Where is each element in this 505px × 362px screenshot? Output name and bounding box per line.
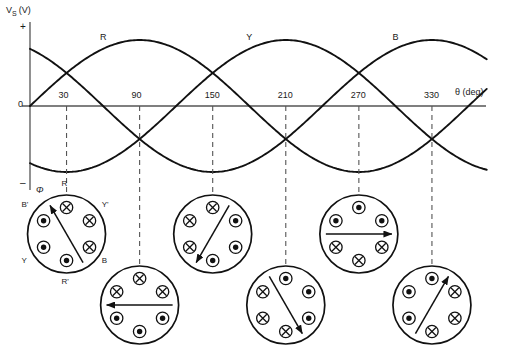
origin-label: 0 [18, 100, 23, 109]
stator-270 [320, 195, 398, 273]
slot-30-bottom-dot-current-out [64, 258, 69, 263]
pole-label-B-prime: B' [21, 201, 28, 209]
stator-150 [174, 195, 252, 273]
y-axis-negative-sign: – [20, 178, 26, 188]
x-axis-label: θ (deg) [455, 88, 484, 97]
stator-210 [247, 266, 325, 344]
slot-270-top-left-dot-current-out [333, 218, 338, 223]
y-axis-label-unit: (V) [19, 5, 31, 15]
pole-label-Y-prime: Y' [102, 201, 109, 209]
y-axis-label-subscript: S [12, 10, 17, 17]
curve-label-B: B [392, 33, 398, 42]
slot-270-top-right-dot-current-out [379, 218, 384, 223]
x-tick-label-210: 210 [278, 91, 293, 100]
pole-label-Y: Y [21, 257, 26, 265]
slot-150-top-right-dot-current-out [233, 218, 238, 223]
flux-symbol-label: Φ [36, 186, 44, 195]
y-axis-label: VS(V) [6, 6, 31, 17]
pole-label-R: R [62, 180, 68, 188]
slot-270-top-dot-current-out [356, 205, 361, 210]
pole-label-R-prime: R' [62, 278, 69, 286]
slot-30-bottom-left-dot-current-out [41, 245, 46, 250]
x-tick-label-330: 330 [424, 91, 439, 100]
slot-30-top-left-dot-current-out [41, 218, 46, 223]
slot-90-bottom-left-dot-current-out [114, 316, 119, 321]
slot-330-top-dot-current-out [429, 276, 434, 281]
x-tick-label-90: 90 [132, 91, 142, 100]
stator-30 [28, 195, 106, 273]
x-tick-label-270: 270 [351, 91, 366, 100]
slot-210-top-right-dot-current-out [306, 289, 311, 294]
slot-330-top-left-dot-current-out [406, 289, 411, 294]
slot-210-top-dot-current-out [283, 276, 288, 281]
slot-150-bottom-right-dot-current-out [233, 245, 238, 250]
stator-90 [101, 266, 179, 344]
x-tick-label-150: 150 [205, 91, 220, 100]
x-tick-label-30: 30 [59, 91, 69, 100]
stator-diagram-group [0, 0, 505, 362]
pole-label-B: B [102, 257, 107, 265]
slot-210-bottom-right-dot-current-out [306, 316, 311, 321]
slot-90-bottom-right-dot-current-out [160, 316, 165, 321]
curve-label-Y: Y [246, 33, 252, 42]
y-axis-positive-sign: + [20, 22, 26, 32]
stator-330 [393, 266, 471, 344]
slot-330-bottom-left-dot-current-out [406, 316, 411, 321]
slot-90-bottom-dot-current-out [137, 329, 142, 334]
slot-150-bottom-dot-current-out [210, 258, 215, 263]
figure-canvas: RY'BR'YB'VS(V)+–0θ (deg)Φ309015021027033… [0, 0, 505, 362]
curve-label-R: R [100, 33, 107, 42]
